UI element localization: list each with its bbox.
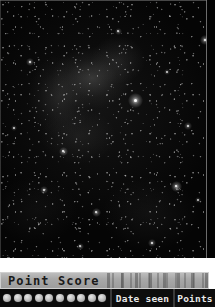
app-root: Point Score Date seen Points [0,0,215,307]
sky-image-viewport[interactable] [0,0,215,258]
score-dots-cell[interactable] [0,289,110,307]
score-dot[interactable] [3,294,11,302]
score-dot[interactable] [98,294,106,302]
table-header-row: Date seen Points [0,289,215,307]
score-dot[interactable] [24,294,32,302]
star [166,71,167,72]
sky-right-gutter [207,0,215,258]
star [95,211,97,213]
star [151,242,153,244]
column-header-date-seen[interactable]: Date seen [110,289,173,307]
column-header-points[interactable]: Points [173,289,215,307]
score-dot[interactable] [35,294,43,302]
panel-separator-gap [0,258,215,272]
star [13,127,14,128]
star [29,61,31,63]
star [43,189,45,191]
point-score-bar-texture [105,273,208,288]
score-dot[interactable] [14,294,22,302]
score-dot[interactable] [67,294,75,302]
score-dot[interactable] [56,294,64,302]
star [197,199,198,200]
starfield-image [0,0,215,258]
sky-frame-right-border [206,0,207,258]
star [79,245,80,246]
star [62,150,64,152]
point-score-header-bar[interactable]: Point Score [0,272,209,289]
score-dot[interactable] [88,294,96,302]
score-dot[interactable] [77,294,85,302]
star [117,30,118,31]
star-field-dust-layer-secondary [0,0,215,258]
point-score-title: Point Score [8,274,100,289]
star [134,99,137,102]
sky-frame-left-border [0,0,1,258]
star [187,125,189,127]
sky-frame-top-border [0,0,207,1]
score-dot[interactable] [45,294,53,302]
